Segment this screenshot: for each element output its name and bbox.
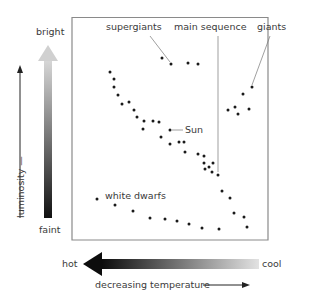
decreasing-temperature-arrow-icon [203, 282, 250, 288]
star-dot-main-sequence [204, 168, 207, 171]
star-dot-white-dwarfs [149, 217, 152, 220]
star-dot-main-sequence [229, 197, 232, 200]
star-dot-main-sequence [221, 190, 224, 193]
star-dot-white-dwarfs [201, 227, 204, 230]
star-dot-white-dwarfs [164, 218, 167, 221]
star-dot-main-sequence [109, 71, 112, 74]
supergiants-label: supergiants [106, 22, 162, 32]
giants-leader-line [252, 36, 270, 85]
star-dot-white-dwarfs [96, 198, 99, 201]
faint-label: faint [39, 225, 61, 235]
star-dot-white-dwarfs [188, 223, 191, 226]
sun-label: Sun [185, 125, 203, 135]
star-dot-main-sequence [133, 109, 136, 112]
star-dot-giants [237, 113, 240, 116]
star-dot-main-sequence [169, 143, 172, 146]
luminosity-label: luminosity — [16, 156, 26, 218]
star-dot-main-sequence [208, 166, 211, 169]
star-dot-main-sequence [121, 103, 124, 106]
star-dot-main-sequence [246, 226, 249, 229]
star-dot-main-sequence [113, 78, 116, 81]
main-sequence-label: main sequence [174, 22, 247, 32]
brightness-gradient-arrow-icon [38, 45, 58, 218]
star-dot-main-sequence [217, 174, 220, 177]
star-dot-white-dwarfs [218, 228, 221, 231]
hot-label: hot [62, 259, 78, 269]
star-dot-main-sequence [113, 86, 116, 89]
star-dot-main-sequence [243, 216, 246, 219]
star-dot-main-sequence [117, 94, 120, 97]
giants-label: giants [257, 22, 286, 32]
decreasing-temperature-label: decreasing temperature [95, 280, 210, 290]
star-dot-main-sequence [184, 151, 187, 154]
star-dot-main-sequence [212, 162, 215, 165]
star-dot-white-dwarfs [132, 210, 135, 213]
star-dot-giants [234, 106, 237, 109]
star-dot-main-sequence [203, 155, 206, 158]
star-dot-supergiants [197, 63, 200, 66]
star-dot-main-sequence [169, 129, 172, 132]
star-dot-main-sequence [152, 120, 155, 123]
star-dot-main-sequence [142, 128, 145, 131]
star-dots [96, 57, 254, 231]
supergiants-leader-line [150, 36, 170, 62]
star-dot-white-dwarfs [114, 204, 117, 207]
star-dot-main-sequence [183, 141, 186, 144]
star-dot-supergiants [187, 62, 190, 65]
temperature-gradient-arrow-icon [83, 252, 259, 276]
star-dot-main-sequence [233, 212, 236, 215]
star-dot-main-sequence [143, 120, 146, 123]
white-dwarfs-label: white dwarfs [105, 191, 166, 201]
star-dot-main-sequence [178, 141, 181, 144]
star-dot-main-sequence [136, 116, 139, 119]
star-dot-giants [248, 108, 251, 111]
star-dot-supergiants [170, 63, 173, 66]
star-dot-main-sequence [160, 136, 163, 139]
star-dot-giants [242, 93, 245, 96]
star-dot-giants [227, 109, 230, 112]
star-dot-main-sequence [128, 101, 131, 104]
star-dot-main-sequence [197, 153, 200, 156]
star-dot-main-sequence [158, 121, 161, 124]
star-dot-giants [251, 86, 254, 89]
star-dot-main-sequence [211, 171, 214, 174]
bright-label: bright [36, 27, 64, 37]
cool-label: cool [262, 259, 282, 269]
star-dot-main-sequence [203, 162, 206, 165]
star-dot-white-dwarfs [176, 220, 179, 223]
star-dot-supergiants [161, 57, 164, 60]
